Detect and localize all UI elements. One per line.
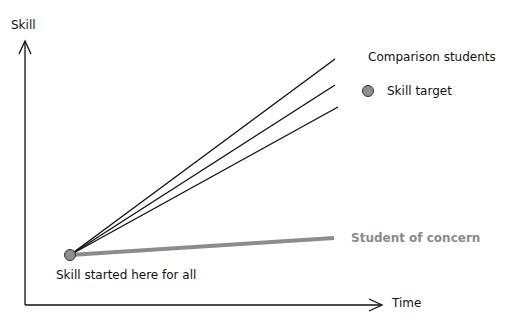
- start-label: Skill started here for all: [56, 268, 196, 282]
- comparison-line: [70, 59, 335, 255]
- comparison-line: [70, 85, 335, 255]
- concern-line: [70, 238, 334, 255]
- x-axis-label: Time: [392, 296, 421, 310]
- skill-target-dot-icon: [363, 86, 374, 97]
- concern-label: Student of concern: [351, 231, 480, 245]
- target-label: Skill target: [387, 84, 452, 98]
- comparison-label: Comparison students: [368, 50, 496, 64]
- comparison-line: [70, 107, 338, 255]
- start-point-dot-icon: [65, 250, 76, 261]
- y-axis-label: Skill: [11, 18, 36, 32]
